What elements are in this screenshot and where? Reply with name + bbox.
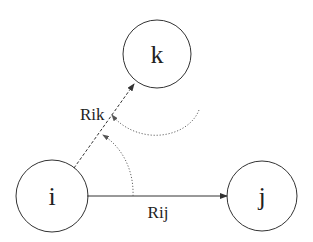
relation-diagram: k i j Rij Rik bbox=[0, 0, 313, 242]
edge-rij-label: Rij bbox=[148, 203, 169, 222]
edge-rik-label: Rik bbox=[80, 105, 105, 124]
node-k-label: k bbox=[151, 40, 164, 69]
node-j: j bbox=[227, 161, 297, 231]
node-k: k bbox=[123, 20, 191, 88]
edge-rik-arrow bbox=[74, 84, 134, 168]
node-i: i bbox=[16, 160, 88, 232]
angle-arc-rij-to-rik bbox=[103, 135, 133, 196]
outer-rotation-arc bbox=[112, 110, 199, 135]
node-j-label: j bbox=[257, 182, 265, 211]
node-i-label: i bbox=[48, 182, 55, 211]
